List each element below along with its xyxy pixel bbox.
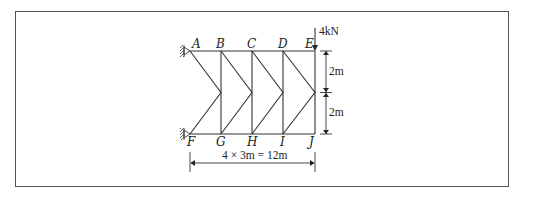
node-label-j: J: [306, 135, 315, 149]
node-label-b: B: [215, 37, 225, 51]
node-label-h: H: [246, 135, 258, 149]
span-label: 4 × 3m = 12m: [222, 149, 287, 161]
node-label-d: D: [277, 37, 288, 51]
vertical-members: [221, 51, 315, 134]
lower-height-label: 2m: [329, 106, 344, 118]
vertical-dimension: [320, 51, 332, 134]
node-label-g: G: [216, 135, 226, 149]
truss-diagram: 4kN A B C D E F G H I J 2m 2m 4 × 3m = 1…: [0, 0, 533, 198]
support-a-icon: [180, 45, 190, 57]
node-label-a: A: [191, 37, 201, 51]
upper-height-label: 2m: [329, 65, 344, 77]
node-label-i: I: [279, 135, 285, 149]
load-label: 4kN: [319, 25, 340, 37]
node-label-c: C: [247, 37, 256, 51]
node-label-f: F: [186, 135, 196, 149]
node-label-e: E: [304, 37, 314, 51]
